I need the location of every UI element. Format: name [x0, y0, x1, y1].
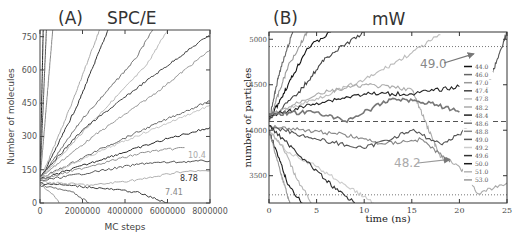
y-tick-label: 750: [22, 33, 37, 42]
legend-label-47.4: 47.4: [475, 87, 489, 94]
x-tick-label: 4000000: [107, 207, 143, 216]
series-line-51.0: [269, 130, 312, 203]
annotation-48-2: 48.2: [394, 156, 421, 170]
panel-label: (A): [58, 8, 83, 28]
legend: 44.046.047.047.447.848.248.448.648.849.0…: [463, 63, 493, 185]
legend-label-48.2: 48.2: [475, 104, 489, 111]
series-line-48.8: [269, 126, 450, 162]
y-axis-label: number of particles: [242, 68, 253, 168]
series-line-decay-2: [40, 185, 89, 203]
y-tick-label: 3500: [249, 172, 267, 180]
legend-label-49.0: 49.0: [475, 136, 489, 143]
legend-label-44.0: 44.0: [475, 63, 489, 70]
legend-label-48.6: 48.6: [475, 120, 489, 127]
legend-label-46.0: 46.0: [475, 71, 489, 78]
x-tick-label: 20: [454, 206, 464, 215]
y-tick-label: 300: [22, 132, 37, 141]
legend-label-49.6: 49.6: [475, 152, 489, 159]
x-tick-label: 8000000: [192, 207, 228, 216]
y-tick-label: 600: [22, 66, 37, 75]
legend-label-48.4: 48.4: [475, 112, 489, 119]
series-line-mid-3: [40, 34, 210, 176]
series-line-47.4: [269, 32, 364, 120]
panel-b-mw: 44.046.047.047.447.848.248.448.648.849.0…: [242, 8, 512, 224]
chart-title: mW: [372, 9, 406, 29]
series-line-fast-5: [40, 30, 108, 181]
x-tick-label: 25: [502, 206, 512, 215]
x-tick-label: 0: [266, 206, 271, 215]
y-tick-label: 450: [22, 99, 37, 108]
legend-label-53.0: 53.0: [475, 176, 489, 183]
x-axis-label: time (ns): [365, 213, 410, 224]
x-tick-label: 2000000: [65, 207, 101, 216]
panel-a-spce: 0150300450600750020000004000000600000080…: [6, 8, 228, 232]
panel-label: (B): [273, 8, 298, 28]
y-axis-label: Number of molecules: [6, 68, 16, 165]
series-line-mid-4: [40, 50, 210, 178]
chart-title: SPC/E: [107, 8, 156, 28]
series-line-7.41: [40, 183, 168, 203]
x-axis-label: MC steps: [104, 222, 145, 232]
legend-label-48.8: 48.8: [475, 128, 489, 135]
figure: 0150300450600750020000004000000600000080…: [0, 0, 522, 239]
y-tick-label: 150: [22, 166, 37, 175]
legend-label-50.0: 50.0: [475, 160, 489, 167]
x-tick-label: 0: [37, 207, 42, 216]
legend-label-47.0: 47.0: [475, 79, 489, 86]
annotation-8-78: 8.78: [180, 174, 198, 183]
annotation-arrow-49-0: [444, 54, 474, 63]
legend-label-47.8: 47.8: [475, 95, 489, 102]
y-tick-label: 0: [32, 199, 37, 208]
x-tick-label: 6000000: [150, 207, 186, 216]
y-tick-label: 5000: [249, 36, 267, 44]
annotation-49-0: 49.0: [420, 57, 447, 71]
annotation-10-4: 10.4: [188, 151, 206, 160]
x-tick-label: 5: [314, 206, 319, 215]
legend-label-49.2: 49.2: [475, 144, 489, 151]
series-line-46.0: [269, 32, 293, 121]
series-line-fast-4: [40, 30, 100, 181]
legend-label-51.0: 51.0: [475, 168, 489, 175]
series-line-mid-2: [40, 30, 168, 179]
series-line-48.6: [269, 98, 459, 122]
annotation-7-41: 7.41: [165, 188, 183, 197]
